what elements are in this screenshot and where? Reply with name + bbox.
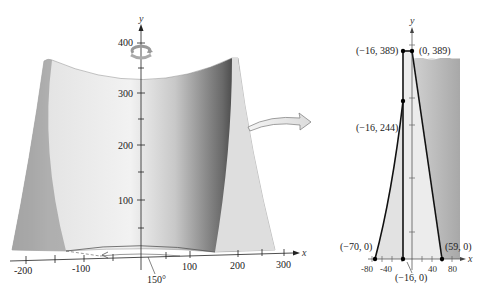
rotation-arrow-icon: [131, 46, 153, 58]
label-neg70-0: (−70, 0): [340, 241, 372, 253]
label-neg16-244: (−16, 244): [356, 122, 398, 134]
label-59-0: (59, 0): [445, 241, 472, 253]
x-tick-100: 100: [182, 261, 197, 272]
left-y-label: y: [138, 13, 144, 24]
figure-canvas: y 400 300 200 100 x -200 -100 100: [0, 0, 486, 300]
point-59-0: [440, 257, 444, 261]
point-neg16-244: [401, 99, 405, 103]
y-tick-200: 200: [118, 140, 133, 151]
x-tick-300: 300: [276, 259, 291, 270]
label-0-389: (0, 389): [419, 45, 451, 57]
point-neg16-0: [401, 257, 405, 261]
curved-arrow-icon: [248, 113, 311, 131]
right-y-label: y: [409, 15, 415, 26]
angle-label: 150°: [147, 274, 166, 285]
point-neg16-389: [401, 49, 405, 53]
cross-section-region: [373, 51, 460, 259]
label-neg16-389: (−16, 389): [356, 45, 398, 57]
x-tick-neg100: -100: [72, 263, 90, 274]
left-x-axis: x -200 -100 100 200 300 150°: [10, 247, 307, 285]
rx-tick-40: 40: [428, 264, 438, 274]
y-tick-100: 100: [118, 195, 133, 206]
point-neg70-0: [373, 257, 377, 261]
y-tick-400: 400: [118, 37, 133, 48]
rx-tick-neg40: -40: [380, 264, 392, 274]
right-x-label: x: [467, 253, 473, 264]
x-tick-neg200: -200: [14, 265, 32, 276]
point-0-389: [410, 49, 414, 53]
x-tick-200: 200: [230, 260, 245, 271]
rx-tick-neg80: -80: [361, 264, 373, 274]
label-neg16-0: (−16, 0): [395, 272, 427, 284]
rx-tick-80: 80: [448, 264, 458, 274]
left-x-label: x: [301, 247, 307, 258]
y-tick-300: 300: [118, 88, 133, 99]
